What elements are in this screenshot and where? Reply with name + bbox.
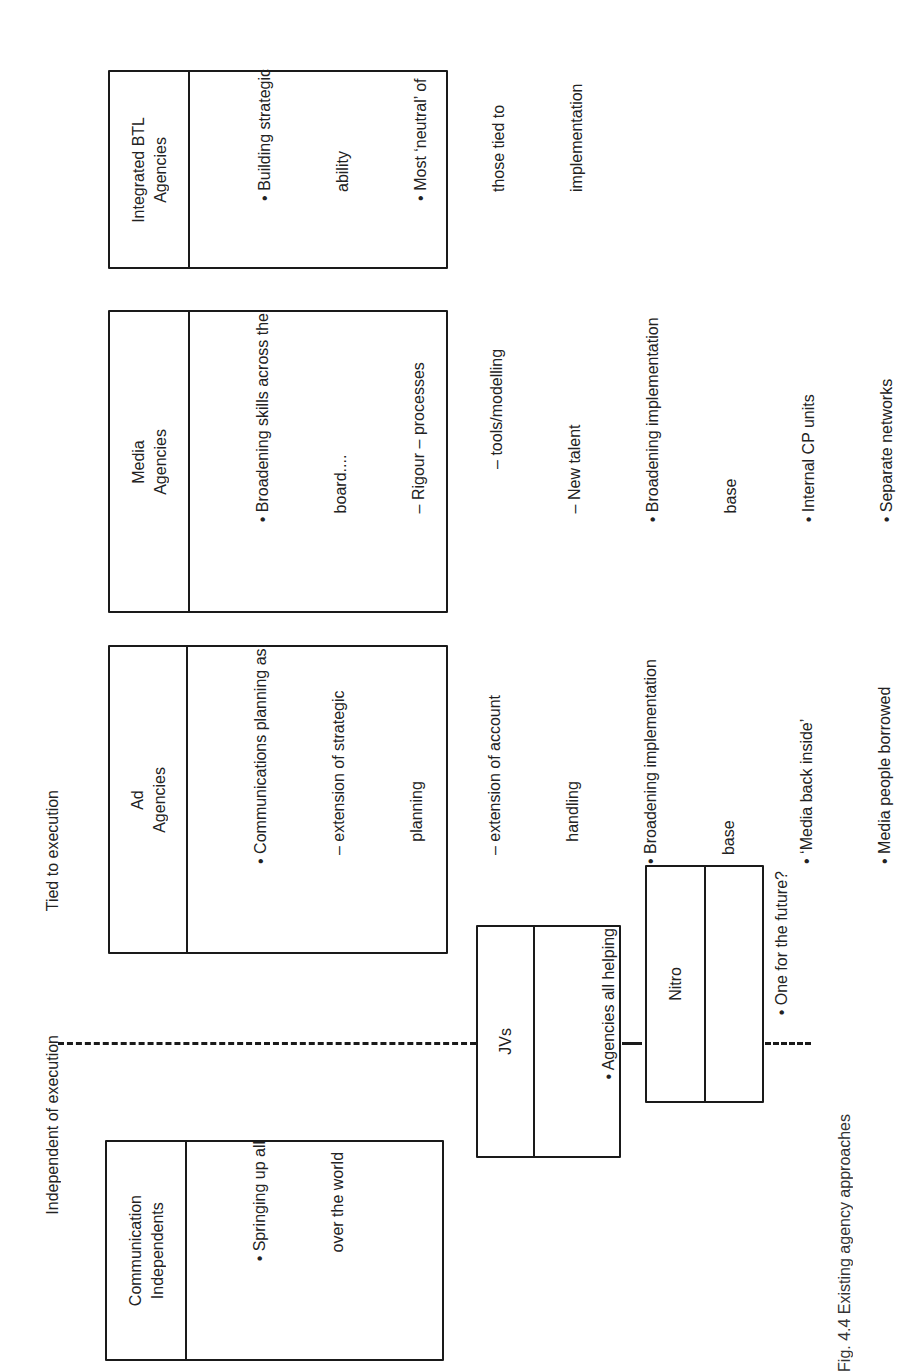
- bullet-line: • Communications planning as:: [248, 644, 274, 864]
- box-header: JVs: [478, 927, 534, 1156]
- box-header: MediaAgencies: [110, 312, 190, 611]
- bullet-line: • Broadening implementation: [638, 644, 664, 864]
- box-body: • Building strategic ability • Most ‘neu…: [200, 69, 642, 259]
- box-title: Agencies: [149, 767, 171, 833]
- zone-label-tied: Tied to execution: [44, 790, 62, 911]
- box-media-agencies: MediaAgencies • Broadening skills across…: [108, 310, 448, 613]
- box-jvs: JVs • Agencies all helping each other?: [476, 925, 621, 1158]
- box-title: Communication: [125, 1195, 147, 1306]
- bullet-line: planning: [404, 644, 430, 864]
- box-title: JVs: [495, 1028, 517, 1055]
- bullet-line: • Broadening implementation: [640, 313, 666, 522]
- bullet-line: • Most ‘neutral’ of: [408, 69, 434, 201]
- bullet-line: those tied to: [486, 69, 512, 201]
- separator-dashed-line-left: [58, 1042, 476, 1045]
- bullet-line: ability: [330, 69, 356, 201]
- bullet-line: base: [718, 313, 744, 522]
- box-title: Integrated BTL: [128, 117, 150, 223]
- bullet-line: • Agencies all helping: [596, 928, 622, 1079]
- box-title: Ad: [127, 767, 149, 833]
- box-body: • Broadening skills across the board....…: [198, 313, 900, 603]
- bullet-line: – tools/modelling: [484, 313, 510, 522]
- bullet-line: implementation: [564, 69, 590, 201]
- box-header: AdAgencies: [110, 647, 188, 952]
- bullet-line: • Media people borrowed: [872, 644, 898, 864]
- bullet-line: handling: [560, 644, 586, 864]
- box-body: • One for the future?: [717, 871, 847, 1091]
- bullet-line: • ‘Media back inside’: [794, 644, 820, 864]
- bullet-line: • Springing up all: [247, 1141, 273, 1261]
- bullet-line: – extension of account: [482, 644, 508, 864]
- bullet-line: – extension of strategic: [326, 644, 352, 864]
- bullet-line: • Internal CP units: [796, 313, 822, 522]
- box-body: • Springing up all over the world: [195, 1141, 403, 1351]
- bullet-line: base: [716, 644, 742, 864]
- bullet-line: • Broadening skills across the: [250, 313, 276, 522]
- box-communication-independents: CommunicationIndependents • Springing up…: [105, 1140, 444, 1361]
- bullet-line: • Separate networks: [874, 313, 900, 522]
- box-title: Independents: [147, 1195, 169, 1306]
- bullet-line: over the world: [325, 1141, 351, 1261]
- box-header: CommunicationIndependents: [107, 1142, 187, 1359]
- box-title: Agencies: [150, 117, 172, 223]
- bullet-line: board....: [328, 313, 354, 522]
- bullet-line: – Rigour – processes: [406, 313, 432, 522]
- box-title: Agencies: [150, 429, 172, 495]
- box-title: Media: [128, 429, 150, 495]
- box-integrated-btl-agencies: Integrated BTLAgencies • Building strate…: [108, 70, 448, 269]
- box-nitro: Nitro • One for the future?: [645, 865, 764, 1103]
- box-title: Nitro: [665, 967, 687, 1001]
- zone-label-independent: Independent of execution: [44, 1035, 62, 1215]
- box-ad-agencies: AdAgencies • Communications planning as:…: [108, 645, 448, 954]
- box-header: Integrated BTLAgencies: [110, 72, 190, 267]
- bullet-line: • Building strategic: [252, 69, 278, 201]
- bullet-line: • One for the future?: [769, 871, 795, 1015]
- figure-caption: Fig. 4.4 Existing agency approaches: [836, 1114, 854, 1372]
- box-header: Nitro: [647, 867, 705, 1101]
- bullet-line: – New talent: [562, 313, 588, 522]
